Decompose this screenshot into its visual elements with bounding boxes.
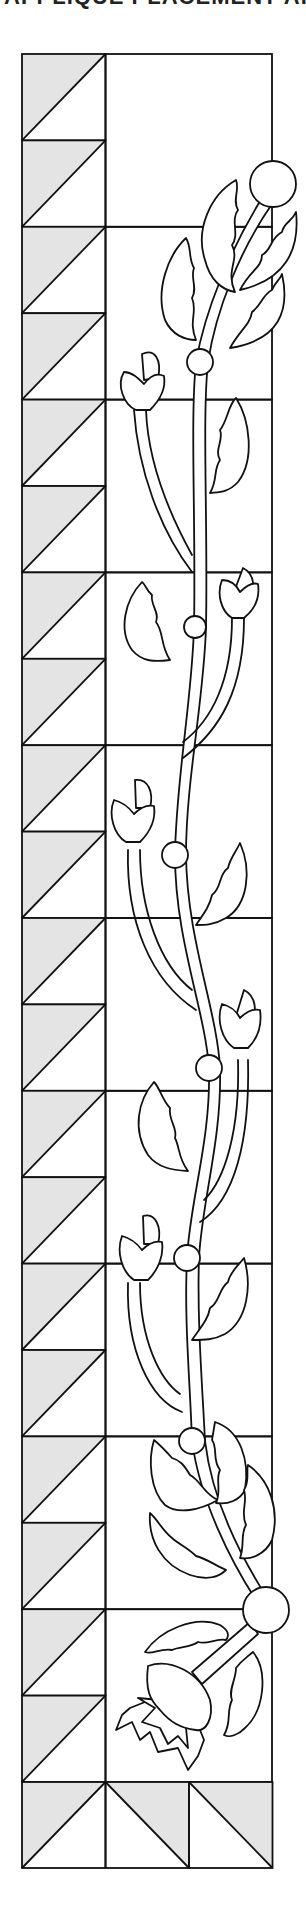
tulip-bud <box>120 1215 163 1280</box>
leaf <box>210 398 249 493</box>
tulip-bud <box>121 352 165 410</box>
quilt-diagram <box>0 0 306 1906</box>
tulip-bud <box>220 568 259 618</box>
bud-stem <box>146 410 192 555</box>
stem-node <box>184 616 206 638</box>
large-circle <box>250 161 296 207</box>
leaf <box>145 1622 228 1653</box>
leaf <box>224 1652 262 1736</box>
leaf <box>162 238 196 340</box>
stem-node <box>187 349 213 375</box>
leaf <box>212 1422 246 1503</box>
pieced-grid <box>22 54 273 1868</box>
leaf <box>125 582 170 661</box>
stem-node <box>174 1245 200 1271</box>
applique-vine <box>112 161 297 1770</box>
large-circle <box>243 1587 289 1633</box>
stem-node <box>196 1055 222 1081</box>
bud-stem <box>128 1283 182 1412</box>
tulip-bud <box>220 990 261 1048</box>
leaf <box>139 1082 188 1171</box>
leaf <box>196 843 247 925</box>
tulip-bud <box>112 780 155 842</box>
stem-node <box>162 842 188 868</box>
background-block <box>106 54 273 227</box>
leaf <box>192 1258 248 1340</box>
stem-node <box>179 1428 205 1454</box>
